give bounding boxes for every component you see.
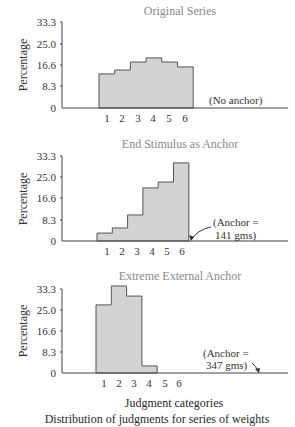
y-tick: 25.0 [37, 304, 57, 316]
chart-end-stimulus-anchor: End Stimulus as Anchor Percentage 0 8.3 … [16, 137, 288, 257]
y-tick: 16.6 [37, 192, 57, 204]
y-tick: 33.3 [37, 150, 57, 162]
bar-group [96, 286, 157, 373]
y-axis-label: Percentage [16, 305, 30, 358]
y-tick: 16.6 [37, 59, 57, 71]
x-tick: 2 [119, 245, 125, 257]
x-tick: 4 [146, 377, 152, 389]
y-tick: 0 [51, 235, 57, 247]
y-tick: 0 [51, 102, 57, 114]
y-tick: 8.3 [42, 346, 56, 358]
x-tick: 6 [176, 377, 182, 389]
y-tick: 25.0 [37, 38, 57, 50]
histogram-bars [99, 58, 193, 108]
y-tick: 33.3 [37, 16, 57, 28]
x-tick: 4 [150, 112, 156, 124]
x-tick: 3 [131, 377, 137, 389]
annotation-anchor-line2: 347 gms) [206, 359, 248, 372]
x-tick: 5 [162, 377, 168, 389]
x-ticks: 1 2 3 4 5 6 [101, 377, 182, 389]
x-tick: 6 [179, 245, 185, 257]
chart-title: End Stimulus as Anchor [122, 137, 238, 151]
histogram-bars [96, 286, 157, 373]
x-tick: 1 [104, 112, 110, 124]
chart-title: Original Series [144, 4, 217, 18]
y-ticks: 0 8.3 16.6 25.0 33.3 [37, 150, 57, 247]
x-ticks: 1 2 3 4 5 6 [104, 245, 185, 257]
y-tick: 25.0 [37, 171, 57, 183]
chart-extreme-external-anchor: Extreme External Anchor Percentage 0 8.3… [16, 269, 288, 389]
y-axis-label: Percentage [16, 173, 30, 226]
x-tick: 3 [135, 112, 141, 124]
chart-original-series: Original Series Percentage 0 8.3 16.6 25… [16, 4, 288, 124]
x-tick: 3 [134, 245, 140, 257]
arrowhead-icon [189, 235, 194, 241]
x-tick: 6 [182, 112, 188, 124]
axes [60, 289, 288, 373]
y-tick: 16.6 [37, 325, 57, 337]
chart-title: Extreme External Anchor [119, 269, 242, 283]
y-tick: 33.3 [37, 283, 57, 295]
x-tick: 2 [116, 377, 122, 389]
y-ticks: 0 8.3 16.6 25.0 33.3 [37, 283, 57, 379]
x-tick: 5 [164, 245, 170, 257]
y-tick: 8.3 [42, 80, 56, 92]
x-tick: 1 [104, 245, 110, 257]
y-tick: 0 [51, 367, 57, 379]
bar-group [97, 163, 189, 241]
x-tick: 5 [166, 112, 172, 124]
histogram-bars [97, 163, 189, 241]
x-tick: 1 [101, 377, 107, 389]
anchor-arrow-icon [191, 227, 211, 240]
bar-group [99, 58, 193, 108]
annotation-anchor-line1: (Anchor = [213, 216, 259, 229]
annotation-anchor-line2: 141 gms) [215, 229, 257, 242]
figure-caption: Distribution of judgments for series of … [45, 412, 270, 426]
x-ticks: 1 2 3 4 5 6 [104, 112, 188, 124]
x-tick: 2 [119, 112, 125, 124]
y-ticks: 0 8.3 16.6 25.0 33.3 [37, 16, 57, 114]
y-axis-label: Percentage [16, 39, 30, 92]
x-tick: 4 [149, 245, 155, 257]
annotation-no-anchor: (No anchor) [209, 94, 263, 107]
figure: Original Series Percentage 0 8.3 16.6 25… [0, 0, 295, 427]
y-tick: 8.3 [42, 214, 56, 226]
x-axis-label: Judgment categories [125, 396, 224, 410]
arrowhead-icon [255, 368, 260, 373]
